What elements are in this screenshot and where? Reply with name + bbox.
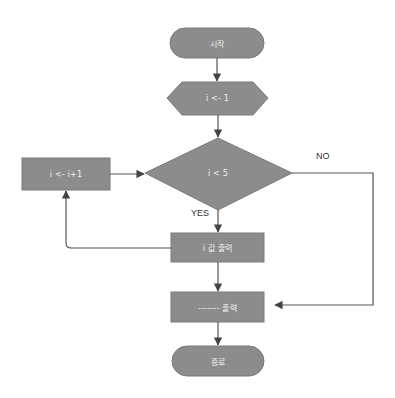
start-label: 시작 — [170, 28, 264, 58]
flowchart-canvas: 시작 i <- 1 i < 5 i <- i+1 i 값 출력 ------- … — [0, 0, 395, 398]
no-edge-label: NO — [316, 151, 330, 161]
edge-print-i-to-inc — [66, 191, 171, 248]
print-line-label: ------- 출력 — [171, 292, 264, 322]
yes-edge-label: YES — [191, 208, 209, 218]
increment-label: i <- i+1 — [22, 158, 110, 190]
edge-cond-no-to-print-line — [275, 173, 373, 305]
init-label: i <- 1 — [167, 82, 268, 115]
flowchart-graphics — [0, 0, 395, 398]
print-i-label: i 값 출력 — [171, 233, 264, 262]
condition-label: i < 5 — [168, 160, 268, 186]
end-label: 종료 — [172, 346, 264, 376]
